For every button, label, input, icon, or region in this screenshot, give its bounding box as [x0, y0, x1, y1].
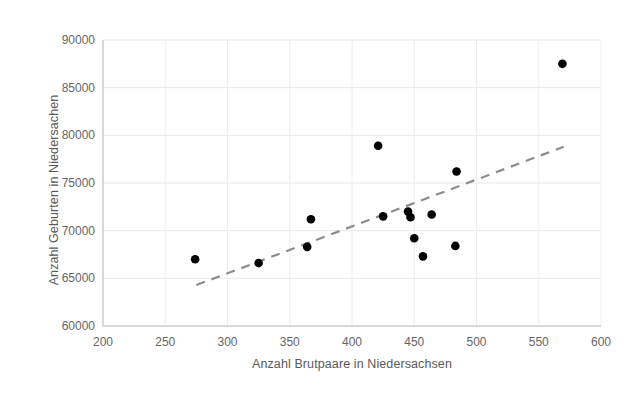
data-point [452, 167, 461, 176]
data-point [191, 255, 200, 264]
plot-area [0, 0, 640, 410]
data-point [410, 234, 419, 243]
gridlines [103, 40, 601, 326]
data-point [254, 259, 263, 268]
data-point [379, 212, 388, 221]
data-point [419, 252, 428, 261]
data-point [307, 215, 316, 224]
data-point [374, 142, 383, 151]
data-point [451, 242, 460, 251]
data-point [558, 60, 567, 69]
data-point [406, 213, 415, 222]
data-points [191, 60, 567, 268]
data-point [303, 243, 312, 252]
data-point [427, 210, 436, 219]
scatter-chart: Anzahl Geburten in Niedersachen Anzahl B… [0, 0, 640, 410]
